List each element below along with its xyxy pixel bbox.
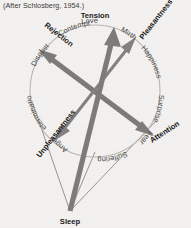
arrowhead-tension — [104, 27, 121, 47]
axis-label-sleep: Sleep — [60, 217, 81, 226]
emotion-label-determination: Determination — [0, 0, 48, 132]
axis-label-tension: Tension — [81, 11, 110, 20]
schlosberg-emotion-diagram: (After Schlosberg, 1954.) — [0, 0, 191, 228]
emotion-label-surprise: Surprise — [151, 95, 166, 125]
axis-label-attention: Attention — [148, 119, 181, 145]
axis-label-unpleasantness: Unpleasantness — [34, 108, 77, 159]
diagram-canvas: Love Mirth Happiness Surprise Fear Suffe… — [0, 0, 191, 228]
emotion-label-happiness: Happiness — [139, 43, 163, 79]
arrow-sleep-tension — [70, 27, 121, 211]
emotion-label-suffering: Suffering — [97, 150, 128, 165]
arrow-rejection-attention — [38, 49, 154, 136]
axis-label-pleasantness: Pleasantness — [137, 0, 174, 41]
